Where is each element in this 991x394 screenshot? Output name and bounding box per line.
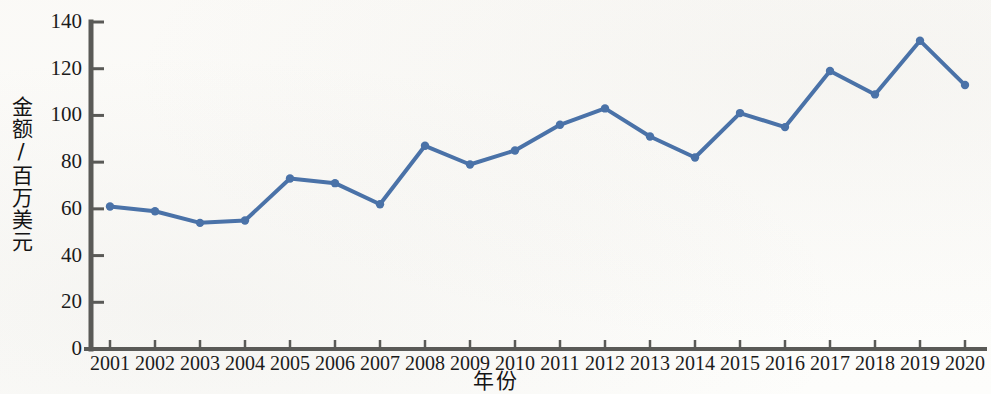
data-point-marker <box>736 109 744 117</box>
axis-group <box>86 22 985 349</box>
data-series-line <box>110 41 965 223</box>
data-point-marker <box>961 81 969 89</box>
data-point-marker <box>691 153 699 161</box>
data-point-marker <box>331 179 339 187</box>
data-point-marker <box>781 123 789 131</box>
x-axis-title: 年份 <box>0 364 991 394</box>
data-point-marker <box>556 121 564 129</box>
data-point-marker <box>196 219 204 227</box>
data-point-marker <box>241 216 249 224</box>
data-point-marker <box>871 90 879 98</box>
chart-figure: 金额/百万美元 020406080100120140 2001200220032… <box>0 0 991 394</box>
data-point-marker <box>601 104 609 112</box>
data-point-marker <box>376 200 384 208</box>
data-point-marker <box>421 142 429 150</box>
data-point-marker <box>916 36 924 44</box>
data-point-markers <box>106 36 969 227</box>
data-point-marker <box>106 202 114 210</box>
data-point-marker <box>646 132 654 140</box>
data-point-marker <box>286 174 294 182</box>
data-point-marker <box>826 67 834 75</box>
data-point-marker <box>466 160 474 168</box>
data-point-marker <box>151 207 159 215</box>
data-point-marker <box>511 146 519 154</box>
line-chart-plot <box>0 0 991 394</box>
